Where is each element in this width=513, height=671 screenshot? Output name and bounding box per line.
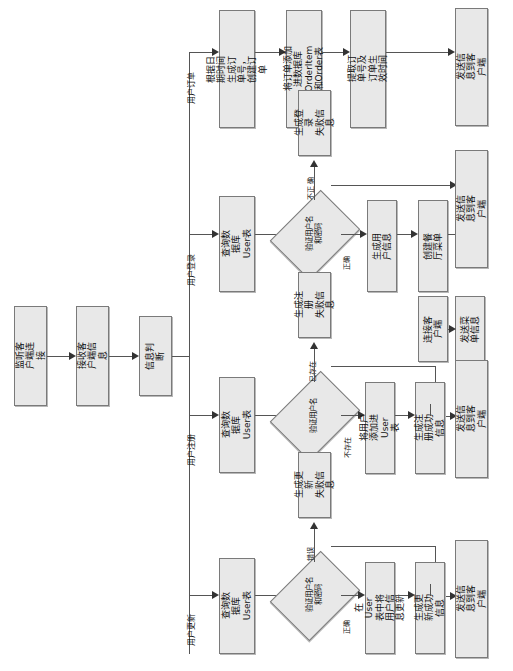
edge-label-register-not-exists: 不存在 [342, 424, 352, 458]
connector-update-fail [314, 528, 315, 562]
node-label: 发送信息到客户端 [456, 404, 487, 435]
node-order-extract-info: 提取订单号及订单生 效时间 [350, 10, 386, 128]
arrowhead-login-connect-to-sendmenu [449, 325, 456, 333]
connector-order-2-3 [322, 52, 343, 53]
node-update-query-user-table: 查询数据库User表 [219, 558, 255, 654]
edge-label-register-exists: 已存在 [307, 352, 317, 382]
node-login-generate-user-info: 生成用户信息 [367, 200, 397, 292]
arrowhead-login-fail [310, 160, 318, 167]
branch-label-update: 用户更新 [185, 606, 196, 646]
node-login-send-to-client: 发送信息到客户端 [455, 150, 488, 268]
connector-update-1-2 [395, 595, 408, 596]
node-label: 将用户添加进 User表 [359, 414, 400, 442]
connector-register-fail-to-send [331, 366, 435, 367]
arrowhead-login-1-2 [411, 230, 418, 238]
node-label: 将订单添加进数据库 OrderItem和Order表 [283, 46, 324, 92]
connector-spine-to-login [189, 234, 212, 235]
connector-login-1-2 [397, 234, 411, 235]
node-label: 发送信息到客户端 [456, 52, 487, 83]
decision-label: 验证用户名 和密码 [305, 578, 322, 613]
connector-judge-to-spine [172, 356, 189, 357]
arrowhead-spine-to-register [212, 411, 219, 419]
branch-label-order: 用户订单 [185, 64, 196, 104]
arrowhead-login-ok [360, 230, 367, 238]
arrowhead-update-fail [310, 522, 318, 529]
node-register-success-message: 生成注册成功 信息 [415, 382, 445, 474]
node-update-user-info: 在User表中将 用户信息更新 [365, 562, 395, 654]
branch-label-login: 用户登录 [185, 246, 196, 286]
connector-order-1-2 [255, 52, 279, 53]
connector-login-ok [341, 234, 360, 235]
branch-spine [189, 52, 190, 654]
connector-order-3-send [386, 52, 448, 53]
connector-listen-to-receive [47, 356, 69, 357]
node-label: 监听客户端连接 [15, 341, 46, 372]
node-label: 接收客户端信息 [77, 341, 108, 372]
node-register-fail-message: 生成注册 失败信息 [298, 272, 331, 338]
node-label: 连接客户端 [423, 315, 444, 343]
decision-label: 验证用户名 [310, 398, 319, 433]
node-register-query-user-table: 查询数据库User表 [219, 377, 255, 473]
node-label: 查询数据库User表 [221, 589, 252, 623]
arrowhead-spine-to-login [212, 230, 219, 238]
node-label: 发送信息到客户端 [456, 194, 487, 225]
branch-label-register: 用户注册 [185, 426, 196, 466]
node-register-add-user: 将用户添加进 User表 [365, 382, 395, 474]
connector-spine-to-update [189, 595, 212, 596]
node-label: 创建餐厅菜单 [423, 232, 444, 260]
connector-login-fail-to-send [331, 185, 450, 186]
node-label: 发送信息到客户端 [456, 584, 487, 615]
node-login-create-menu: 创建餐厅菜单 [418, 200, 448, 292]
node-update-fail-message: 生成更新 失败信息 [298, 452, 331, 518]
node-register-send-to-client: 发送信息到客户端 [455, 360, 488, 478]
node-order-send-to-client: 发送信息到客户端 [455, 8, 488, 126]
node-label: 查询数据库User表 [221, 408, 252, 442]
node-receive-client-message: 接收客户端信息 [76, 306, 109, 406]
connector-receive-to-judge [109, 356, 132, 357]
node-order-create: 根据日期时间生成订 单号，创建订单 [219, 10, 255, 128]
node-label: 在User表中将 用户信息更新 [354, 594, 406, 622]
decision-label: 验证用户名 和密码 [305, 217, 322, 252]
connector-register-exists [314, 348, 315, 382]
connector-register-success-up [430, 404, 431, 416]
connector-spine-to-register [189, 415, 212, 416]
connector-update-success-up [430, 584, 431, 596]
arrowhead-spine-to-update [212, 591, 219, 599]
arrowhead-receive-to-judge [132, 352, 139, 360]
arrowhead-order-3-send [448, 48, 455, 56]
decision-update-verify: 验证用户名 和密码 [287, 560, 341, 630]
connector-update-fail-to-send [331, 546, 435, 547]
node-label: 生成更新成功 信息 [414, 594, 445, 622]
node-login-send-menu-info: 发送菜单信息 [455, 296, 485, 362]
node-label: 生成登录 失败信息 [294, 108, 335, 139]
decision-login-verify: 验证用户名 和密码 [287, 199, 341, 269]
node-label: 信息判断 [145, 341, 166, 372]
edge-label-login-ok: 正确 [341, 244, 351, 270]
node-label: 生成用户信息 [372, 232, 393, 260]
node-login-connect-client: 连接客户端 [418, 296, 448, 362]
node-update-success-message: 生成更新成功 信息 [415, 562, 445, 654]
arrowhead-register-exists [310, 342, 318, 349]
edge-label-update-ok: 正确 [341, 608, 351, 634]
node-label: 发送菜单信息 [460, 315, 481, 343]
node-listen-client-connection: 监听客户端连接 [14, 306, 47, 406]
node-label: 生成注册成功 信息 [414, 414, 445, 442]
connector-register-1-2 [395, 415, 408, 416]
decision-register-verify-username: 验证用户名 [287, 380, 341, 450]
node-login-fail-message: 生成登录 失败信息 [298, 90, 331, 156]
node-label: 查询数据库User表 [221, 227, 252, 261]
node-label: 根据日期时间生成订 单号，创建订单 [206, 52, 268, 86]
node-label: 生成注册 失败信息 [294, 290, 335, 321]
node-label: 生成更新 失败信息 [294, 470, 335, 501]
node-update-send-to-client: 发送信息到客户端 [455, 540, 488, 658]
arrowhead-listen-to-receive [69, 352, 76, 360]
node-label: 提取订单号及订单生 效时间 [347, 52, 388, 86]
connector-register-ok [341, 415, 358, 416]
flowchart-canvas: 监听客户端连接 接收客户端信息 信息判断 用户订单 根据日期时间生成订 单号，创… [0, 0, 513, 671]
node-login-query-user-table: 查询数据库User表 [219, 196, 255, 292]
connector-login-fail [314, 166, 315, 200]
node-message-judgement: 信息判断 [139, 316, 172, 396]
